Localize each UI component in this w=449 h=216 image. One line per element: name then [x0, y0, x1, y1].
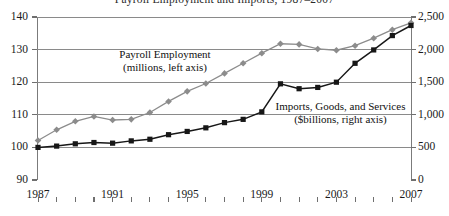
x-axis-tick-label: 1999	[250, 188, 273, 200]
x-axis-tick-label: 2003	[325, 188, 348, 200]
left-axis-tick-label: 90	[17, 174, 29, 186]
data-point-payroll	[72, 118, 79, 125]
x-axis-tick	[243, 197, 244, 202]
payroll-annotation-line2: (millions, left axis)	[98, 61, 232, 74]
x-axis-tick	[392, 197, 393, 202]
data-point-imports	[129, 138, 134, 143]
right-axis-tick-label: 1,500	[418, 76, 444, 88]
data-point-imports	[35, 145, 40, 150]
x-axis-tick	[224, 197, 225, 202]
data-point-payroll	[128, 116, 135, 123]
data-point-imports	[371, 47, 376, 52]
data-point-payroll	[35, 137, 42, 144]
imports-annotation: Imports, Goods, and Services ($billions,…	[263, 100, 418, 125]
x-axis-tick-label: 2007	[400, 188, 423, 200]
data-point-imports	[315, 85, 320, 90]
x-axis-tick	[56, 197, 57, 202]
payroll-annotation-line1: Payroll Employment	[98, 48, 232, 61]
data-point-imports	[408, 23, 413, 28]
x-axis-tick-label: 1995	[176, 188, 199, 200]
right-axis-tick-label: 0	[418, 174, 424, 186]
imports-annotation-line1: Imports, Goods, and Services	[263, 100, 418, 113]
x-axis-tick-label: 1991	[101, 188, 124, 200]
x-axis-tick	[317, 197, 318, 202]
data-point-payroll	[333, 47, 340, 54]
right-axis-tick-label: 2,500	[418, 11, 444, 23]
left-axis-tick-label: 130	[11, 44, 28, 56]
x-axis-tick	[93, 197, 94, 202]
data-point-payroll	[53, 127, 60, 134]
x-axis-tick	[373, 197, 374, 202]
data-point-payroll	[184, 88, 191, 95]
data-point-payroll	[277, 40, 284, 47]
data-point-payroll	[370, 35, 377, 42]
x-axis-tick-label: 1987	[27, 188, 50, 200]
left-axis-tick-label: 140	[11, 11, 28, 23]
data-point-payroll	[296, 41, 303, 48]
data-point-payroll	[389, 26, 396, 33]
data-point-payroll	[203, 80, 210, 87]
plot-area	[37, 17, 412, 180]
data-point-imports	[73, 141, 78, 146]
data-point-imports	[147, 137, 152, 142]
data-point-imports	[241, 117, 246, 122]
data-point-imports	[334, 80, 339, 85]
x-axis-tick	[355, 197, 356, 202]
data-point-imports	[222, 120, 227, 125]
data-point-imports	[54, 144, 59, 149]
data-point-imports	[203, 125, 208, 130]
x-axis-tick	[131, 197, 132, 202]
x-axis-tick	[280, 197, 281, 202]
data-point-payroll	[259, 50, 266, 57]
data-point-imports	[91, 140, 96, 145]
data-point-payroll	[147, 109, 154, 116]
data-point-imports	[278, 81, 283, 86]
payroll-annotation: Payroll Employment (millions, left axis)	[98, 48, 232, 73]
data-point-imports	[110, 141, 115, 146]
x-axis-tick	[299, 197, 300, 202]
chart-title: Payroll Employment and Imports, 1987–200…	[0, 0, 449, 5]
data-point-payroll	[91, 113, 98, 120]
data-point-imports	[352, 61, 357, 66]
right-axis-tick-label: 500	[418, 141, 435, 153]
left-axis-tick-label: 120	[11, 76, 28, 88]
left-axis-tick-label: 110	[11, 109, 28, 121]
data-point-payroll	[165, 98, 172, 105]
x-axis-tick	[168, 197, 169, 202]
series-lines	[37, 17, 412, 180]
data-point-imports	[297, 86, 302, 91]
x-axis-tick	[149, 197, 150, 202]
data-point-imports	[185, 129, 190, 134]
data-point-imports	[166, 132, 171, 137]
left-axis-tick-label: 100	[11, 141, 28, 153]
data-point-payroll	[240, 60, 247, 67]
x-axis-tick	[75, 197, 76, 202]
x-axis-tick	[205, 197, 206, 202]
data-point-payroll	[109, 117, 116, 124]
chart-figure: Payroll Employment and Imports, 1987–200…	[0, 0, 449, 216]
data-point-imports	[390, 33, 395, 38]
imports-annotation-line2: ($billions, right axis)	[263, 113, 418, 126]
data-point-payroll	[314, 46, 321, 53]
data-point-payroll	[352, 42, 359, 49]
right-axis-tick-label: 2,000	[418, 44, 444, 56]
right-axis-tick-label: 1,000	[418, 109, 444, 121]
